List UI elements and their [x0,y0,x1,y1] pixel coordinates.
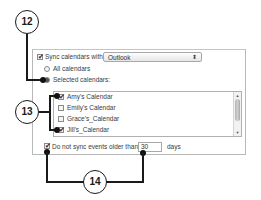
updown-arrows-icon: ⬍ [192,53,197,61]
calendar-label: Grace's_Calendar [67,115,119,123]
callout-14: 14 [83,170,107,194]
callout-13-dot [54,127,60,133]
callout-12: 12 [15,10,39,34]
callout-14-leader [142,153,144,183]
scroll-thumb[interactable] [235,99,240,121]
sync-calendars-checkbox[interactable]: ✔ [37,54,43,60]
list-scrollbar[interactable]: ▲ ▼ [233,92,241,136]
scroll-down-icon[interactable]: ▼ [234,130,241,135]
callout-13-dot [54,93,60,99]
older-events-label: Do not sync events older than [52,143,138,151]
calendar-checkbox[interactable] [58,116,64,122]
sync-source-dropdown[interactable]: Outlook ⬍ [103,52,202,62]
callout-14-leader [106,181,144,183]
callout-12-dot [40,77,46,83]
check-icon: ✔ [38,54,44,60]
calendar-label: Emily's Calendar [67,104,116,112]
selected-calendars-label: Selected calendars: [53,76,110,84]
scroll-up-icon[interactable]: ▲ [234,93,241,98]
callout-14-leader [46,181,84,183]
callout-14-leader [46,152,48,183]
calendar-label: Amy's Calendar [67,93,113,101]
calendar-label: Jill's_Calendar [67,126,109,134]
all-calendars-radio[interactable] [44,66,50,72]
callout-13: 13 [15,100,39,124]
all-calendars-label: All calendars [53,65,90,73]
sync-calendars-label: Sync calendars with: [45,53,105,61]
sync-source-value: Outlook [108,54,130,62]
callout-12-leader [26,34,28,81]
calendar-list[interactable]: ✔ Amy's Calendar Emily's Calendar Grace'… [53,91,242,137]
calendar-checkbox[interactable] [58,105,64,111]
callout-13-bracket [49,95,51,131]
days-unit-label: days [167,143,181,151]
